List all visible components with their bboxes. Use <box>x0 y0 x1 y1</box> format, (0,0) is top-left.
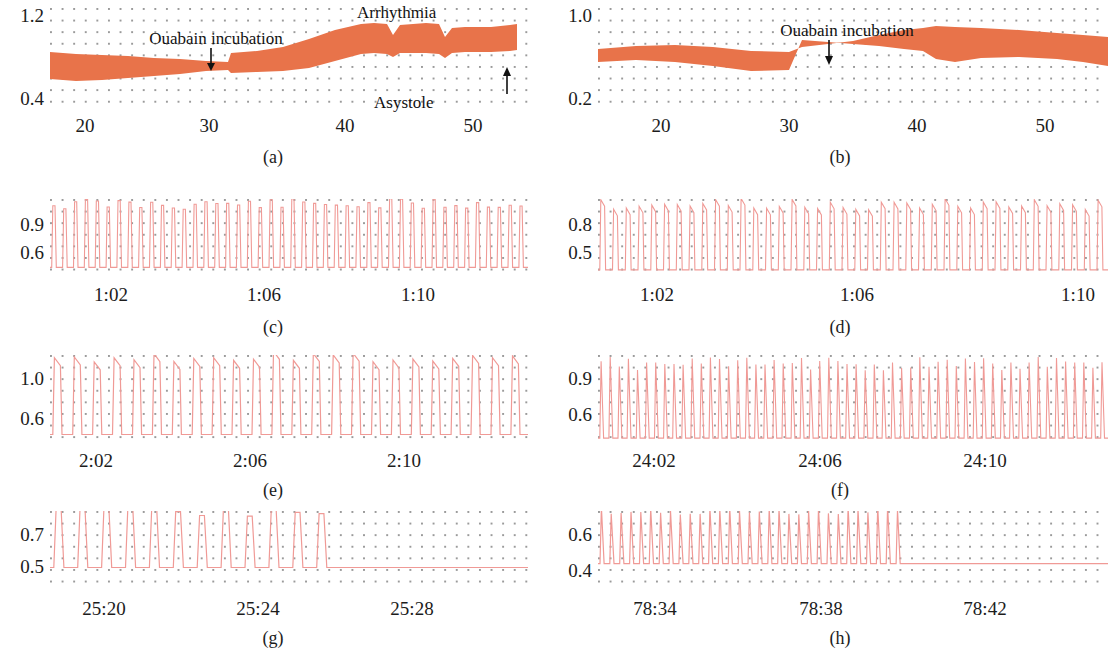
panel-f: 0.9 0.6 24:02 24:06 24:10 (f) <box>557 345 1114 500</box>
panel-h-ytick-top: 0.6 <box>554 525 592 544</box>
panel-a-xtick-2: 40 <box>336 116 355 135</box>
panel-e-xtick-1: 2:06 <box>233 451 267 470</box>
panel-a: 1.2 0.4 Ouabain incubation Arrhythmia As… <box>0 0 557 170</box>
panel-g-waveform-path <box>50 511 528 568</box>
panel-c-caption: (c) <box>263 318 283 336</box>
panel-f-xtick-2: 24:10 <box>963 451 1006 470</box>
panel-g-ytick-top: 0.7 <box>6 525 44 544</box>
panel-d-waveform-path <box>598 199 1108 270</box>
panel-a-ytick-top: 1.2 <box>6 6 44 25</box>
panel-b-annotation-ouabain: Ouabain incubation <box>780 22 914 39</box>
figure-root: 1.2 0.4 Ouabain incubation Arrhythmia As… <box>0 0 1114 651</box>
panel-a-annotation-ouabain: Ouabain incubation <box>149 30 283 47</box>
panel-f-xtick-1: 24:06 <box>798 451 841 470</box>
panel-e-plot <box>50 355 528 441</box>
panel-a-annotation-asystole: Asystole <box>374 94 434 111</box>
panel-c-xtick-0: 1:02 <box>94 285 128 304</box>
panel-a-asystole-arrow-up-icon <box>500 66 514 94</box>
panel-h-caption: (h) <box>830 629 851 647</box>
panel-a-xtick-3: 50 <box>464 116 483 135</box>
panel-c: 0.9 0.6 1:02 1:06 1:10 (c) <box>0 185 557 340</box>
panel-b: 1.0 0.2 Ouabain incubation 20 30 40 50 (… <box>557 0 1114 170</box>
panel-c-xtick-2: 1:10 <box>401 285 435 304</box>
panel-g-waveform-svg <box>50 511 528 589</box>
panel-h-ytick-bottom: 0.4 <box>554 561 592 580</box>
panel-c-waveform-path <box>50 199 528 267</box>
panel-c-ytick-bottom: 0.6 <box>6 243 44 262</box>
panel-e-waveform-svg <box>50 355 528 441</box>
panel-d-ytick-top: 0.8 <box>554 215 592 234</box>
panel-b-ytick-bottom: 0.2 <box>554 89 592 108</box>
panel-f-ytick-bottom: 0.6 <box>554 405 592 424</box>
panel-b-xtick-3: 50 <box>1036 116 1055 135</box>
panel-g-caption: (g) <box>263 629 284 647</box>
panel-e-ytick-bottom: 0.6 <box>6 409 44 428</box>
panel-e-waveform-path <box>50 355 528 435</box>
panel-d: 0.8 0.5 1:02 1:06 1:10 (d) <box>557 185 1114 340</box>
panel-e-caption: (e) <box>263 481 283 499</box>
panel-g-xtick-2: 25:28 <box>390 599 433 618</box>
panel-b-xtick-1: 30 <box>780 116 799 135</box>
panel-c-xtick-1: 1:06 <box>247 285 281 304</box>
panel-a-xtick-1: 30 <box>200 116 219 135</box>
panel-b-caption: (b) <box>830 148 851 166</box>
panel-f-plot <box>598 355 1108 441</box>
panel-f-caption: (f) <box>831 481 849 499</box>
panel-c-plot <box>50 199 528 275</box>
panel-d-xtick-0: 1:02 <box>640 285 674 304</box>
panel-f-xtick-0: 24:02 <box>632 451 675 470</box>
panel-h-waveform-svg <box>598 511 1108 589</box>
panel-h-xtick-2: 78:42 <box>963 599 1006 618</box>
panel-d-plot <box>598 199 1108 275</box>
panel-b-xtick-2: 40 <box>908 116 927 135</box>
panel-b-xtick-0: 20 <box>652 116 671 135</box>
panel-h-xtick-0: 78:34 <box>633 599 676 618</box>
panel-d-waveform-svg <box>598 199 1108 275</box>
panel-a-envelope-band <box>50 23 517 81</box>
panel-g-plot <box>50 511 528 589</box>
panel-g: 0.7 0.5 25:20 25:24 25:28 (g) <box>0 503 557 651</box>
panel-g-xtick-1: 25:24 <box>236 599 279 618</box>
panel-f-waveform-path <box>598 357 1108 438</box>
panel-a-annotation-arrhythmia: Arrhythmia <box>357 4 436 21</box>
panel-a-ouabain-arrow-down-icon <box>204 48 218 72</box>
panel-g-xtick-0: 25:20 <box>82 599 125 618</box>
panel-f-ytick-top: 0.9 <box>554 369 592 388</box>
panel-b-ytick-top: 1.0 <box>554 6 592 25</box>
panel-a-ytick-bottom: 0.4 <box>6 89 44 108</box>
panel-c-waveform-svg <box>50 199 528 275</box>
panel-a-caption: (a) <box>263 148 283 166</box>
panel-h-waveform-path <box>598 511 1108 564</box>
panel-f-waveform-svg <box>598 355 1108 441</box>
panel-h-plot <box>598 511 1108 589</box>
panel-a-envelope-svg <box>50 8 528 104</box>
panel-g-ytick-bottom: 0.5 <box>6 557 44 576</box>
panel-h: 0.6 0.4 78:34 78:38 78:42 (h) <box>557 503 1114 651</box>
panel-d-xtick-2: 1:10 <box>1061 285 1095 304</box>
panel-c-ytick-top: 0.9 <box>6 215 44 234</box>
panel-a-plot <box>50 8 528 104</box>
panel-e: 1.0 0.6 2:02 2:06 2:10 (e) <box>0 345 557 500</box>
panel-b-ouabain-arrow-down-icon <box>822 40 836 66</box>
panel-d-xtick-1: 1:06 <box>840 285 874 304</box>
panel-h-xtick-1: 78:38 <box>799 599 842 618</box>
panel-e-xtick-0: 2:02 <box>79 451 113 470</box>
panel-e-ytick-top: 1.0 <box>6 369 44 388</box>
panel-e-xtick-2: 2:10 <box>387 451 421 470</box>
panel-a-xtick-0: 20 <box>76 116 95 135</box>
panel-d-caption: (d) <box>830 318 851 336</box>
panel-d-ytick-bottom: 0.5 <box>554 243 592 262</box>
